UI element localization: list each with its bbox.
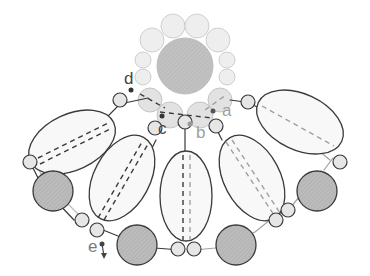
oval-bead-center (160, 151, 212, 241)
start-dot-d (129, 88, 134, 93)
center-rosette (135, 14, 235, 128)
beading-diagram: a b c d e (0, 0, 370, 276)
dark-bead-3 (216, 225, 256, 265)
dark-bead-1 (33, 171, 73, 211)
label-a: a (222, 101, 232, 120)
start-dot-b (188, 122, 193, 127)
arrow-head-e (101, 253, 107, 259)
label-e: e (88, 237, 97, 256)
start-dot-c (160, 114, 165, 119)
label-b: b (196, 123, 205, 142)
oval-beads (18, 77, 353, 241)
center-large-bead (157, 38, 213, 94)
label-c: c (158, 119, 167, 138)
dark-bead-2 (117, 225, 157, 265)
start-dot-a (211, 109, 216, 114)
label-d: d (124, 69, 133, 88)
dark-bead-4 (297, 171, 337, 211)
